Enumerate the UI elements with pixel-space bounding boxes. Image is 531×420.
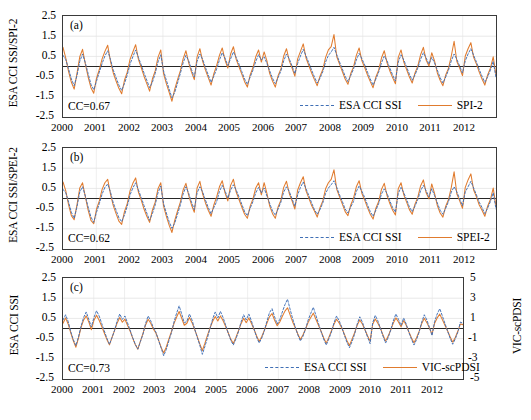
panel-a-ytick-4: -1.5 [24, 89, 54, 101]
panel-b-legend: ESA CCI SSI SPEI-2 [300, 232, 490, 244]
panel-c-cc-label: CC=0.73 [68, 362, 110, 374]
dashed-line-swatch-icon [265, 367, 299, 368]
panel-a-tag: (a) [70, 19, 83, 31]
panel-c-ylabel-right: VIC-scPDSI [511, 271, 523, 381]
panel-a-ylabel: ESA CCI SSI/SPI-2 [7, 3, 19, 123]
panel-b-ytick-0: 2.5 [26, 141, 56, 153]
panel-b-ytick-3: -0.5 [24, 201, 54, 213]
panel-b-ytick-1: 1.5 [26, 161, 56, 173]
panel-a-cc-label: CC=0.67 [68, 100, 110, 112]
panel-a-legend-entry-0: ESA CCI SSI [300, 100, 402, 112]
panel-c-ytick-right-1: 3 [470, 291, 492, 303]
panel-b-legend-label-0: ESA CCI SSI [339, 232, 402, 244]
panel-c-legend-entry-1: VIC-scPDSI [383, 362, 480, 374]
panel-c-ytick-2: 0.5 [26, 311, 56, 323]
panel-b-legend-entry-1: SPEI-2 [418, 232, 490, 244]
panel-b-legend-entry-0: ESA CCI SSI [300, 232, 402, 244]
panel-c-ytick-right-0: 5 [470, 271, 492, 283]
solid-line-swatch-icon [418, 105, 452, 106]
panel-c-legend-entry-0: ESA CCI SSI [265, 362, 367, 374]
solid-line-swatch-icon [383, 367, 417, 368]
panel-b-ytick-4: -1.5 [24, 221, 54, 233]
panel-c-legend-label-0: ESA CCI SSI [304, 362, 367, 374]
panel-a-ytick-2: 0.5 [26, 49, 56, 61]
panel-c-ylabel: ESA CCI SSI [8, 280, 20, 370]
panel-a-legend: ESA CCI SSI SPI-2 [300, 100, 483, 112]
panel-c-ytick-right-2: 1 [470, 311, 492, 323]
panel-a: ESA CCI SSI/SPI-2 2.5 1.5 0.5 -0.5 -1.5 … [0, 0, 531, 140]
panel-b-cc-label: CC=0.62 [68, 232, 110, 244]
panel-a-legend-label-0: ESA CCI SSI [339, 100, 402, 112]
solid-line-swatch-icon [418, 237, 452, 238]
dashed-line-swatch-icon [300, 105, 334, 106]
dashed-line-swatch-icon [300, 237, 334, 238]
panel-a-ytick-3: -0.5 [24, 69, 54, 81]
panel-a-ytick-5: -2.5 [24, 109, 54, 121]
panel-c-legend-label-1: VIC-scPDSI [422, 362, 480, 374]
panel-c: ESA CCI SSI 2.5 1.5 0.5 -0.5 -1.5 -2.5 (… [0, 262, 531, 420]
panel-a-legend-entry-1: SPI-2 [418, 100, 483, 112]
panel-b-ytick-5: -2.5 [24, 241, 54, 253]
panel-c-ytick-0: 2.5 [26, 271, 56, 283]
panel-c-ytick-3: -0.5 [24, 331, 54, 343]
panel-a-ytick-0: 2.5 [26, 9, 56, 21]
panel-b-tag: (b) [70, 151, 83, 163]
panel-b: ESA CCI SSI/SPEI-2 2.5 1.5 0.5 -0.5 -1.5… [0, 132, 531, 270]
panel-c-ytick-right-3: -1 [468, 331, 490, 343]
panel-c-ytick-5: -2.5 [24, 371, 54, 383]
panel-a-legend-label-1: SPI-2 [457, 100, 483, 112]
panel-c-xtick-12: 2012 [412, 383, 452, 395]
panel-c-ytick-1: 1.5 [26, 291, 56, 303]
panel-c-legend: ESA CCI SSI VIC-scPDSI [265, 362, 480, 374]
panel-b-ylabel: ESA CCI SSI/SPEI-2 [7, 135, 19, 255]
panel-b-legend-label-1: SPEI-2 [457, 232, 490, 244]
panel-a-ytick-1: 1.5 [26, 29, 56, 41]
figure-root: ESA CCI SSI/SPI-2 2.5 1.5 0.5 -0.5 -1.5 … [0, 0, 531, 420]
panel-c-ytick-4: -1.5 [24, 351, 54, 363]
panel-b-ytick-2: 0.5 [26, 181, 56, 193]
panel-c-tag: (c) [70, 281, 83, 293]
